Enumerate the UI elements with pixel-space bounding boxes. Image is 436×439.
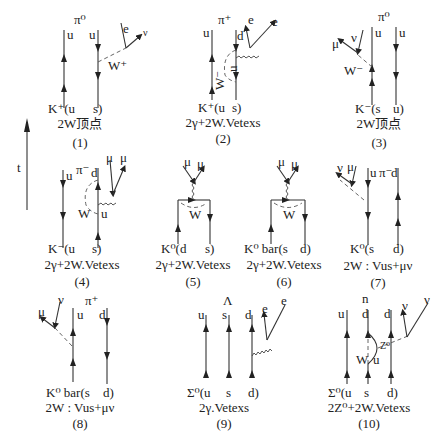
quark-label: u <box>375 25 382 40</box>
diagram-number: (5) <box>185 274 200 289</box>
diagram-number: (3) <box>371 135 386 150</box>
lepton-label: ν <box>58 292 64 307</box>
initial-state-label: K⁰(s <box>350 241 374 256</box>
initial-state-label: K⁰ bar(s <box>46 385 90 400</box>
quark-label: u <box>370 165 377 180</box>
diagram-canvas: t π⁰ u u e ν W⁺ K⁺(u s) 2W顶点 (1) π⁺ u <box>0 0 436 439</box>
lepton-label: μ <box>291 156 298 171</box>
diagram-caption: 2γ+2W.Vetexs <box>44 257 119 272</box>
diagram-caption: 2γ.Vetexs <box>199 400 249 415</box>
diagram-number: (6) <box>276 274 291 289</box>
boson-label: W <box>283 207 296 222</box>
initial-state-label: K⁰ bar(s <box>244 241 288 256</box>
initial-quark-label: d) <box>387 385 398 400</box>
quark-label: d <box>91 165 98 180</box>
lepton-label: μ <box>197 156 204 171</box>
lepton-label: ν <box>402 298 408 313</box>
initial-quark-label: s) <box>92 241 101 256</box>
diagram-caption: 2W : Vus+μν <box>46 400 115 415</box>
diagram-number: (2) <box>215 131 230 146</box>
initial-quark-label: d) <box>103 385 114 400</box>
initial-quark-label: s) <box>232 100 241 115</box>
quark-label: u <box>66 168 73 183</box>
boson-label: W <box>356 352 369 367</box>
diagram-number: (8) <box>72 416 87 431</box>
quark-label: s <box>222 307 227 322</box>
quark-label: u <box>399 25 406 40</box>
final-state-label: π⁺ <box>85 293 98 308</box>
lepton-label: μ <box>184 154 191 169</box>
time-arrow-icon <box>24 118 30 132</box>
initial-quark-label: d) <box>300 241 311 256</box>
initial-state-label: K⁰(d <box>161 241 187 256</box>
quark-label: u <box>67 27 74 42</box>
boson-label: W <box>189 207 202 222</box>
final-state-label: Λ <box>223 293 233 308</box>
quark-label: u <box>198 307 205 322</box>
lepton-label: ν <box>424 292 430 307</box>
quark-label: d <box>384 306 391 321</box>
quark-label: d <box>245 307 252 322</box>
lepton-label: e <box>281 293 287 308</box>
initial-state-label: K⁺(u <box>198 100 226 115</box>
quark-label: d <box>237 28 244 43</box>
boson-label: W⁻ <box>212 71 227 90</box>
diagram-2: π⁺ u d e e W⁻ u K⁺(u s) 2γ+2W.Vetexs (2) <box>185 12 278 146</box>
diagram-number: (4) <box>74 274 89 289</box>
initial-state-label: K⁻(u <box>48 241 76 256</box>
lepton-label: μ <box>347 159 354 174</box>
initial-quark-label: s <box>364 385 369 400</box>
final-state-label: π⁰ <box>378 9 390 24</box>
initial-quark-label: s) <box>93 101 102 116</box>
diagram-caption: 2W顶点 <box>58 116 103 131</box>
final-state-label: π⁰ <box>74 12 86 27</box>
diagram-6: μ μ W K⁰ bar(s d) 2γ+2W.Vetexs (6) <box>244 154 322 289</box>
diagram-caption: 2γ+2W.Vetexs <box>155 257 230 272</box>
diagram-number: (10) <box>358 416 380 431</box>
diagram-8: μ ν π⁺ u d K⁰ bar(s d) 2W : Vus+μν (8) <box>38 292 114 431</box>
diagram-caption: 2Z⁰+2W.Vetexs <box>328 400 410 415</box>
lepton-label: μ <box>278 154 285 169</box>
initial-quark-label: s) <box>205 241 214 256</box>
boson-label: W⁻ <box>344 63 363 78</box>
lepton-label: ν <box>337 160 343 175</box>
diagram-3: π⁰ u u μ ν W⁻ K⁻(s u) 2W顶点 (3) <box>332 9 406 150</box>
initial-state-label: K⁺(u <box>48 101 76 116</box>
boson-label: W⁺ <box>108 58 127 73</box>
lepton-label: e <box>262 301 268 316</box>
final-state-label: π⁻ <box>76 162 89 177</box>
lepton-label: e <box>272 14 278 29</box>
internal-quark-label: u <box>101 206 108 221</box>
internal-quark-label: u <box>225 65 240 72</box>
initial-state-label: Σ⁰(u <box>328 385 352 400</box>
lepton-label: μ <box>106 150 113 165</box>
lepton-label: e <box>248 12 254 27</box>
diagram-5: μ μ W K⁰(d s) 2γ+2W.Vetexs (5) <box>155 154 230 289</box>
diagram-7: ν μ u π⁻ d K⁰(s d) 2W : Vus+μν (7) <box>337 159 412 290</box>
initial-quark-label: d) <box>248 385 259 400</box>
quark-label: u <box>89 27 96 42</box>
diagram-4: u π⁻ d μ μ W u K⁻(u s) 2γ+2W.Vetexs (4) <box>44 150 127 289</box>
lepton-label: ν <box>351 30 357 45</box>
final-state-label: n <box>362 291 369 306</box>
quark-label: d <box>391 165 398 180</box>
initial-quark-label: u) <box>393 101 404 116</box>
quark-label: d <box>99 307 106 322</box>
lepton-label: μ <box>332 36 339 51</box>
diagram-1: π⁰ u u e ν W⁺ K⁺(u s) 2W顶点 (1) <box>48 12 148 150</box>
diagram-caption: 2W顶点 <box>357 116 402 131</box>
time-axis: t <box>17 118 30 210</box>
initial-quark-label: s <box>226 385 231 400</box>
quark-label: u <box>77 307 84 322</box>
initial-state-label: Σ⁰(u <box>187 385 211 400</box>
diagram-number: (7) <box>370 275 385 290</box>
diagram-caption: 2γ+2W.Vetexs <box>246 257 321 272</box>
diagram-number: (9) <box>216 416 231 431</box>
boson-label: W <box>78 206 91 221</box>
diagram-caption: 2W : Vus+μν <box>344 258 413 273</box>
lepton-label: μ <box>38 304 45 319</box>
final-state-label: π⁺ <box>218 12 231 27</box>
boson-label: Z⁰ <box>380 340 390 351</box>
time-axis-label: t <box>17 160 21 175</box>
quark-label: d <box>362 306 369 321</box>
